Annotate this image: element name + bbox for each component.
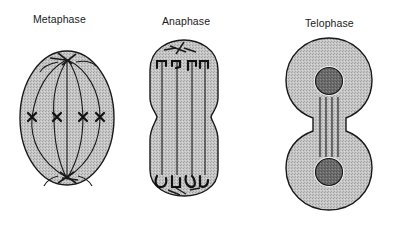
- anaphase-cell: [150, 40, 218, 196]
- diagram-canvas: [0, 0, 398, 225]
- telophase-cell: [286, 38, 372, 210]
- telophase-nucleus-top: [316, 68, 343, 95]
- telophase-nucleus-bottom: [316, 159, 343, 186]
- label-metaphase: Metaphase: [33, 13, 86, 25]
- label-telophase: Telophase: [305, 17, 354, 29]
- metaphase-cell: [20, 51, 114, 186]
- mitosis-diagram: Metaphase Anaphase Telophase: [0, 0, 398, 225]
- label-anaphase: Anaphase: [162, 15, 210, 27]
